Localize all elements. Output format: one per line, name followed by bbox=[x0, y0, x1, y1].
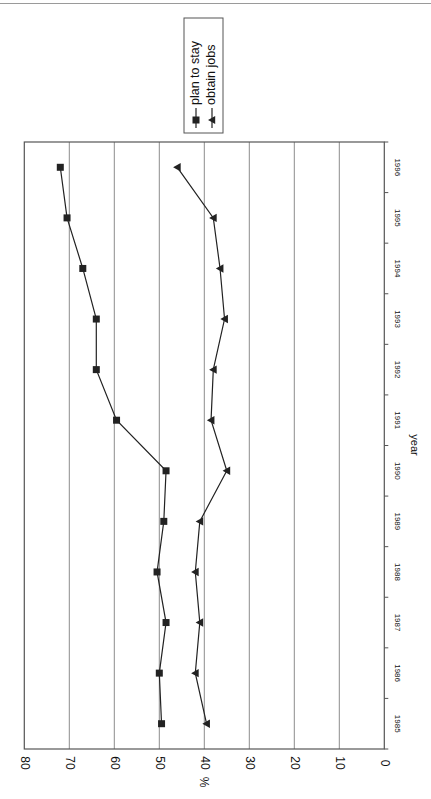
x-tick-label: 1991 bbox=[393, 411, 402, 429]
y-tick-label: 20 bbox=[288, 756, 302, 770]
x-tick-label: 1989 bbox=[393, 512, 402, 530]
legend-label: plan to stay bbox=[188, 40, 202, 105]
series-obtain-jobs bbox=[173, 163, 230, 728]
x-tick-label: 1994 bbox=[393, 260, 402, 278]
square-marker bbox=[163, 467, 170, 474]
chart-canvas: 01020304050607080 1985198619871988198919… bbox=[0, 0, 431, 799]
series-line bbox=[60, 167, 166, 723]
line-chart: 01020304050607080 1985198619871988198919… bbox=[0, 0, 431, 799]
gridlines bbox=[69, 142, 339, 749]
square-marker bbox=[163, 619, 170, 626]
y-tick-label: 30 bbox=[243, 756, 257, 770]
triangle-marker bbox=[209, 214, 217, 222]
y-tick-label: 60 bbox=[108, 756, 122, 770]
x-tick-label: 1985 bbox=[393, 715, 402, 733]
square-marker bbox=[57, 164, 64, 171]
x-axis-label: year bbox=[409, 434, 421, 456]
axis-titles: % year bbox=[197, 434, 421, 787]
x-tick-label: 1992 bbox=[393, 361, 402, 379]
x-tick-label: 1995 bbox=[393, 209, 402, 227]
square-marker bbox=[160, 518, 167, 525]
square-marker bbox=[93, 366, 100, 373]
x-tick-label: 1990 bbox=[393, 462, 402, 480]
x-tick-label: 1993 bbox=[393, 310, 402, 328]
y-tick-label: 10 bbox=[333, 756, 347, 770]
series-line bbox=[177, 167, 227, 723]
triangle-marker bbox=[173, 163, 181, 171]
y-tick-label: 50 bbox=[153, 756, 167, 770]
x-tick-label: 1987 bbox=[393, 614, 402, 632]
square-marker bbox=[79, 265, 86, 272]
series-plan-to-stay bbox=[57, 164, 170, 727]
y-tick-label: 80 bbox=[18, 756, 32, 770]
y-axis-ticks: 01020304050607080 bbox=[18, 756, 392, 770]
legend: plan to stay obtain jobs bbox=[184, 18, 223, 133]
square-marker bbox=[156, 670, 163, 677]
square-marker bbox=[93, 316, 100, 323]
legend-label: obtain jobs bbox=[204, 45, 218, 105]
square-marker bbox=[158, 720, 165, 727]
x-tick-label: 1988 bbox=[393, 563, 402, 581]
y-tick-label: 70 bbox=[63, 756, 77, 770]
triangle-marker bbox=[191, 669, 199, 677]
triangle-marker bbox=[191, 568, 199, 576]
square-marker bbox=[154, 568, 161, 575]
square-marker bbox=[64, 214, 71, 221]
y-tick-label: 0 bbox=[378, 760, 392, 767]
x-tick-label: 1996 bbox=[393, 158, 402, 176]
y-axis-label: % bbox=[197, 777, 211, 788]
x-tick-label: 1986 bbox=[393, 664, 402, 682]
square-marker bbox=[113, 417, 120, 424]
x-axis-ticks: 1985198619871988198919901991199219931994… bbox=[384, 142, 402, 749]
y-tick-label: 40 bbox=[198, 756, 212, 770]
square-marker bbox=[193, 117, 200, 124]
